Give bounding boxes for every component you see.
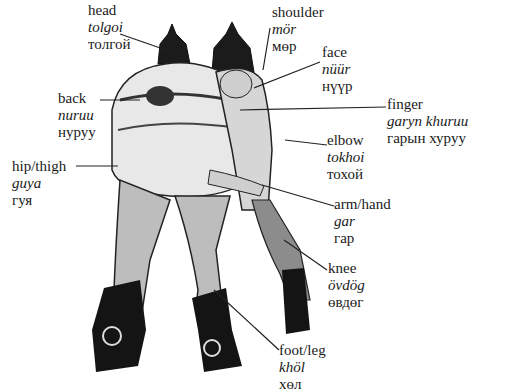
label-english: hip/thigh xyxy=(12,158,66,175)
label-hip-thigh: hip/thigh guya гуя xyxy=(12,158,66,209)
label-romanized: tokhoi xyxy=(327,149,365,166)
label-back: back nuruu нуруу xyxy=(58,90,96,141)
label-knee: knee övdög өвдөг xyxy=(328,260,365,311)
wrestlers-figure: head tolgoi толгой shoulder mör мөр face… xyxy=(0,0,524,392)
label-romanized: guya xyxy=(12,175,66,192)
label-romanized: nüür xyxy=(322,61,353,78)
label-head: head tolgoi толгой xyxy=(88,2,130,53)
label-english: face xyxy=(322,44,353,61)
label-english: head xyxy=(88,2,130,19)
label-cyrillic: тохой xyxy=(327,166,365,183)
label-cyrillic: гар xyxy=(334,230,391,247)
label-english: back xyxy=(58,90,96,107)
label-arm-hand: arm/hand gar гар xyxy=(334,196,391,247)
label-face: face nüür нүүр xyxy=(322,44,353,95)
label-english: arm/hand xyxy=(334,196,391,213)
label-finger: finger garyn khuruu гарын хуруу xyxy=(387,96,468,147)
wrestlers-illustration xyxy=(0,0,524,392)
label-english: knee xyxy=(328,260,365,277)
label-shoulder: shoulder mör мөр xyxy=(272,4,324,55)
label-romanized: khöl xyxy=(279,359,326,376)
label-english: elbow xyxy=(327,132,365,149)
label-romanized: gar xyxy=(334,213,391,230)
label-romanized: tolgoi xyxy=(88,19,130,36)
label-romanized: nuruu xyxy=(58,107,96,124)
label-cyrillic: мөр xyxy=(272,38,324,55)
label-english: finger xyxy=(387,96,468,113)
label-elbow: elbow tokhoi тохой xyxy=(327,132,365,183)
label-cyrillic: гуя xyxy=(12,192,66,209)
label-romanized: övdög xyxy=(328,277,365,294)
label-romanized: garyn khuruu xyxy=(387,113,468,130)
label-cyrillic: хөл xyxy=(279,376,326,392)
label-cyrillic: гарын хуруу xyxy=(387,130,468,147)
label-cyrillic: нүүр xyxy=(322,78,353,95)
label-cyrillic: нуруу xyxy=(58,124,96,141)
label-cyrillic: толгой xyxy=(88,36,130,53)
label-english: foot/leg xyxy=(279,342,326,359)
label-cyrillic: өвдөг xyxy=(328,294,365,311)
label-english: shoulder xyxy=(272,4,324,21)
label-romanized: mör xyxy=(272,21,324,38)
label-foot-leg: foot/leg khöl хөл xyxy=(279,342,326,392)
